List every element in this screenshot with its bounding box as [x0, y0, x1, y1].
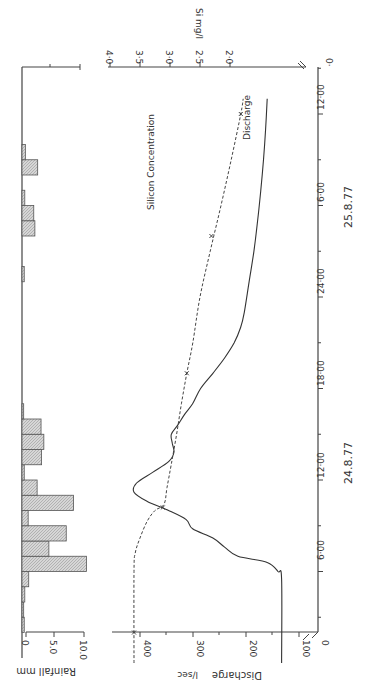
rainfall-bar [22, 206, 34, 221]
rainfall-bar [22, 145, 25, 160]
rainfall-bar [22, 541, 49, 556]
axis-break-icon [303, 632, 318, 640]
rainfall-bar [22, 617, 24, 632]
time-tick-12-24th: 12·00 [316, 452, 326, 478]
rainfall-bar [22, 160, 38, 175]
si-axis-label: Si mg/l [194, 8, 204, 39]
rainfall-bar [22, 572, 29, 587]
date-label-25-8-77: 25.8.77 [342, 186, 355, 228]
discharge-tick-100: 100 [301, 640, 311, 657]
time-tick-6-25th: 6·00 [316, 182, 326, 202]
discharge-tick-400: 400 [142, 640, 152, 657]
time-tick-6-24th: 6·00 [316, 540, 326, 560]
discharge-axis-label: Discharge [212, 670, 262, 681]
sample-marker-icon [209, 234, 213, 238]
rain-tick-5: 5.0 [48, 640, 58, 655]
rainfall-axis-label: Rainfall mm [16, 666, 76, 677]
date-label-24-8-77: 24.8.77 [342, 442, 355, 484]
si-tick-35: 3·5 [134, 50, 144, 64]
rainfall-bar [22, 434, 44, 449]
axis-break-icon [298, 61, 306, 69]
time-tick-12-25th: 12·00 [316, 84, 326, 110]
rainfall-bar [22, 587, 25, 602]
rainfall-bar [22, 404, 24, 419]
si-tick-40: 4·0 [104, 50, 114, 65]
rainfall-bar [22, 450, 42, 465]
rainfall-panel: 0 5.0 10.0 Rainfall mm [16, 64, 88, 677]
discharge-silicon-panel: 4·0 3·5 3·0 2·5 2·0 0· Si mg/l 6·00 12·0… [104, 8, 355, 681]
rainfall-bars [22, 145, 86, 633]
discharge-tick-200: 200 [248, 640, 258, 657]
discharge-unit-label: l/sec [177, 670, 198, 680]
time-ticks [318, 68, 323, 617]
rainfall-bar [22, 419, 41, 434]
rain-tick-0: 0 [20, 640, 30, 646]
discharge-tick-300: 300 [195, 640, 205, 657]
rainfall-bar [22, 526, 66, 541]
si-tick-30: 3·0 [164, 50, 174, 65]
silicon-series-label: Silicon Concentration [146, 114, 156, 210]
rainfall-bar [22, 267, 24, 282]
rainfall-bar [22, 602, 24, 617]
rainfall-bar [22, 190, 25, 205]
rainfall-bar [22, 511, 28, 526]
rainfall-bar [22, 556, 86, 571]
discharge-tick-0: 0 [320, 640, 330, 646]
rain-tick-10: 10.0 [78, 640, 88, 660]
si-tick-25: 2·5 [194, 50, 204, 64]
time-tick-18-24th: 18·00 [316, 360, 326, 386]
rainfall-bar [22, 465, 24, 480]
si-tick-0: 0· [324, 58, 334, 67]
rainfall-bar [22, 495, 74, 510]
rainfall-bar [22, 221, 35, 236]
rainfall-bar [22, 480, 37, 495]
si-tick-20: 2·0 [224, 50, 234, 65]
discharge-series-label: Discharge [242, 94, 252, 140]
discharge-ticks [140, 632, 299, 637]
time-tick-24: 24·00 [316, 268, 326, 294]
rainfall-discharge-silicon-chart: 0 5.0 10.0 Rainfall mm 4·0 3·5 3·0 2·5 2… [0, 0, 373, 699]
